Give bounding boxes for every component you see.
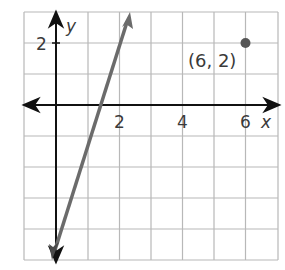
x-axis-label: x xyxy=(260,112,272,132)
y-axis-label: y xyxy=(65,16,77,36)
y-tick-2: 2 xyxy=(36,34,47,54)
line-up-arrow-icon xyxy=(122,12,133,29)
x-tick-2: 2 xyxy=(114,112,125,132)
point-label: (6, 2) xyxy=(188,50,236,71)
point-6-2 xyxy=(241,38,251,48)
coordinate-plane: 2 y 2 4 6 x (6, 2) xyxy=(0,0,285,270)
x-tick-6: 6 xyxy=(240,112,251,132)
x-tick-4: 4 xyxy=(177,112,188,132)
